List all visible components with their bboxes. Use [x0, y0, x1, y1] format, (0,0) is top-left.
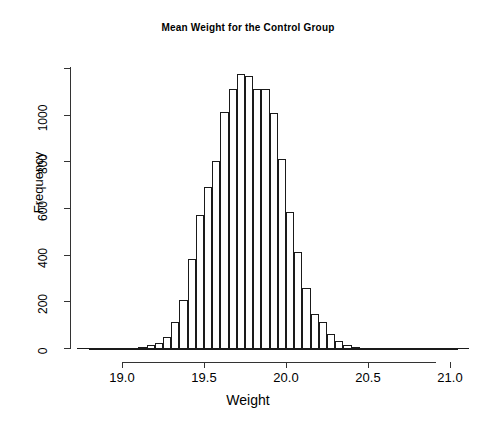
y-axis-tick-label: 400: [26, 248, 60, 262]
x-axis-tick: [368, 362, 369, 368]
x-axis-tick: [122, 362, 123, 368]
histogram-bar: [196, 215, 204, 350]
y-axis-tick-label: 200: [26, 294, 60, 308]
y-axis-tick-label: 0: [26, 341, 60, 355]
histogram-bar: [229, 89, 237, 350]
y-axis-tick-label: 1000: [26, 108, 60, 122]
y-axis-tick: [64, 68, 70, 69]
page-title: Mean Weight for the Control Group: [0, 22, 496, 33]
y-axis-title: Frequency: [31, 123, 46, 243]
x-axis-tick-label: 20.5: [343, 370, 393, 385]
y-axis-tick: [64, 208, 70, 209]
histogram-bar: [261, 89, 269, 350]
histogram-bar: [278, 159, 286, 350]
histogram-bar: [204, 187, 212, 350]
histogram-bar: [212, 161, 220, 350]
histogram-bar: [179, 300, 187, 350]
y-axis-line: [70, 67, 71, 349]
histogram-bar: [286, 212, 294, 350]
y-axis-tick: [64, 255, 70, 256]
histogram-bar: [171, 322, 179, 350]
histogram-bar: [245, 76, 253, 350]
histogram-bars: [77, 60, 469, 349]
y-axis-tick: [64, 301, 70, 302]
x-axis-tick: [286, 362, 287, 368]
x-axis-tick: [450, 362, 451, 368]
histogram-bar: [220, 112, 228, 350]
plot-area: [77, 60, 469, 349]
x-axis-tick-label: 19.0: [97, 370, 147, 385]
y-axis-tick: [64, 115, 70, 116]
histogram-bar: [311, 314, 319, 350]
y-axis-tick: [64, 161, 70, 162]
plot-baseline: [77, 348, 469, 349]
histogram-bar: [253, 89, 261, 350]
histogram-bar: [302, 288, 310, 350]
y-axis-tick-label: 800: [26, 154, 60, 168]
x-axis-tick-label: 20.0: [261, 370, 311, 385]
x-axis-title: Weight: [0, 392, 496, 408]
histogram-bar: [270, 113, 278, 350]
histogram-bar: [237, 74, 245, 351]
x-axis-tick-label: 21.0: [425, 370, 475, 385]
histogram-figure: Mean Weight for the Control Group Freque…: [0, 0, 496, 426]
histogram-bar: [294, 252, 302, 350]
x-axis-tick: [204, 362, 205, 368]
y-axis-tick-label: 600: [26, 201, 60, 215]
y-axis-tick: [64, 348, 70, 349]
histogram-bar: [319, 322, 327, 350]
x-axis-line: [122, 362, 436, 363]
x-axis-tick-label: 19.5: [179, 370, 229, 385]
histogram-bar: [188, 259, 196, 350]
